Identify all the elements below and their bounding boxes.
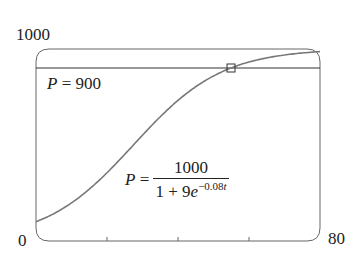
y-max-label: 1000: [16, 26, 50, 43]
hline-var: P: [47, 74, 57, 93]
eq-equals: =: [135, 170, 153, 190]
eq-var: P: [125, 170, 135, 190]
eq-denominator: 1 + 9e−0.08t: [153, 179, 228, 202]
plot-area: [0, 0, 359, 263]
hline-label: P = 900: [47, 75, 101, 92]
hline-value: = 900: [57, 74, 101, 93]
x-max-label: 80: [328, 230, 345, 247]
equation-label: P = 1000 1 + 9e−0.08t: [125, 158, 229, 202]
x-min-label: 0: [18, 232, 27, 249]
eq-fraction: 1000 1 + 9e−0.08t: [153, 158, 228, 202]
eq-numerator: 1000: [170, 158, 212, 178]
